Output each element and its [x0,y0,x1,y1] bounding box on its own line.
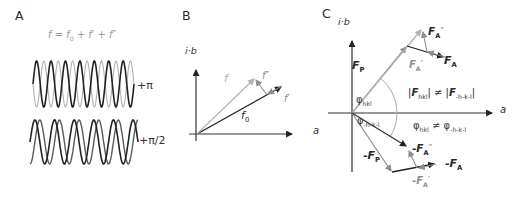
phase-inequality: φhkl ≠ φ-h-k-l [413,121,466,133]
FA-base: F [444,54,452,67]
amp-neq: ≠ [431,87,446,98]
decomposition-equation: f = f0 + f′ + f″ [48,30,116,42]
minus-FA-double-prime-label: -FA″ [412,143,433,157]
amp-sub-2: -h-k-l [456,93,472,100]
phi-hkl-sub: hkl [363,100,372,107]
phase-sub-1: hkl [420,126,429,133]
f-resultant-label: f [224,73,228,84]
c-y-axis-text: i·b [338,16,350,27]
panel-c-label: C [322,8,331,21]
panel-a-waves [30,61,138,164]
phase-sub-2: -h-k-l [450,126,466,133]
amp-F2: F [449,87,456,98]
FA-double-prime-mark: ″ [440,25,444,37]
minus-FP-base: F [368,149,376,162]
equation-equals: = [52,29,67,40]
wave-0-series-1 [33,61,134,107]
panel-b-label: B [182,10,191,23]
phi-minus-hkl-base: φ [357,115,364,126]
panel-b-diagram [189,70,292,141]
f0-label: f0 [241,110,249,124]
b-x-axis-text: a [313,125,319,136]
c-x-axis-label: a [500,105,506,115]
wave-pi-half-label: +π/2 [139,135,166,146]
FA-double-prime-label: FA″ [428,26,444,40]
wave-pi-label: +π [137,80,153,91]
amp-bar-4: | [472,87,475,98]
FP-sub: P [360,66,365,74]
minus-FA-double-prime-mark: ″ [429,142,433,154]
phase-angle-arc [382,79,398,136]
minus-FA-vector [392,164,434,172]
b-x-axis-label: a [313,126,319,136]
b-y-axis-label: i·b [185,46,197,56]
f-double-prime-mark: ″ [266,70,270,81]
minus-FA-prime-mark: ′ [428,175,430,186]
FA-prime-base: F [409,59,416,70]
FA-double-prime-vector [423,32,427,52]
f-prime-mark: ′ [288,93,290,104]
f-double-prime-label: f″ [262,71,269,81]
figure-anomalous-scattering: A f = f0 + f′ + f″ +π +π/2 B i·b a f0 f … [0,0,518,199]
amplitude-inequality: |Fhkl| ≠ |F-h-k-l| [408,88,475,100]
minus-FA-prime-label: -FA′ [412,176,430,188]
equation-plus-2: + [94,29,109,40]
FA-label: FA [444,55,457,69]
equation-plus-1: + [74,29,89,40]
f-resultant-base: f [224,72,228,85]
f0-sub: 0 [245,116,249,124]
FP-label: FP [352,60,365,74]
c-x-axis-text: a [500,104,506,115]
FA-sub: A [452,61,457,69]
phi-minus-hkl-sub: -h-k-l [364,121,380,128]
b-y-axis-text: i·b [185,45,197,56]
phase-neq: ≠ [429,120,444,131]
FP-base: F [352,59,360,72]
minus-FA-label: -FA [445,158,462,172]
wave-1-series-0 [30,120,138,164]
minus-FA-double-prime-base: F [416,142,423,154]
phi-minus-hkl-label: φ-h-k-l [357,116,380,128]
minus-FA-sub: A [457,164,462,172]
minus-FP-label: -FP [363,150,380,164]
equation-fdoubleprime-mark: ″ [113,29,117,40]
f-prime-label: f′ [284,94,290,104]
minus-FA-prime-base: F [416,175,423,186]
panel-c-diagram [328,30,492,172]
phase-phi-1: φ [413,120,420,131]
minus-FA-base: F [450,157,458,170]
FA-prime-mark: ′ [421,59,423,70]
phi-hkl-base: φ [356,94,363,105]
minus-FP-sub: P [375,156,380,164]
f-double-prime-vector [256,80,267,95]
FA-prime-label: FA′ [409,60,423,72]
f-prime-vector [268,86,282,94]
phi-hkl-label: φhkl [356,95,372,107]
c-y-axis-label: i·b [338,17,350,27]
FA-prime-vector [428,52,445,57]
panel-a-label: A [15,10,24,23]
